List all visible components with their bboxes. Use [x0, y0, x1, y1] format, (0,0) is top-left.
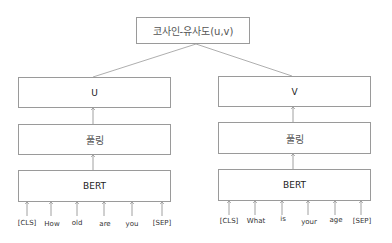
left-pooling-box: 풀링 [18, 124, 171, 155]
right-token: age [329, 216, 342, 224]
right-token: [SEP] [353, 217, 372, 225]
left-token: you [126, 220, 139, 228]
left-output-box: U [18, 77, 171, 108]
right-pooling-label: 풀링 [286, 131, 304, 146]
right-pooling-box: 풀링 [218, 122, 371, 154]
left-output-label: U [91, 88, 98, 98]
left-bert-label: BERT [83, 181, 106, 191]
right-token: [CLS] [220, 217, 239, 225]
right-bert-box: BERT [218, 169, 371, 201]
left-bert-box: BERT [18, 170, 171, 202]
left-token: How [44, 220, 59, 228]
left-token: [CLS] [18, 219, 37, 227]
left-token: [SEP] [153, 219, 172, 227]
right-output-box: V [218, 76, 371, 107]
right-bert-label: BERT [283, 180, 306, 190]
left-pooling-label: 풀링 [86, 132, 104, 147]
cosine-similarity-label: 코사인-유사도(u,v) [153, 23, 234, 38]
right-token: is [280, 215, 286, 223]
right-token: your [301, 218, 317, 226]
cosine-similarity-box: 코사인-유사도(u,v) [136, 17, 250, 44]
right-token: What [247, 217, 265, 225]
left-token: old [72, 219, 83, 227]
left-token: are [99, 220, 110, 228]
right-output-label: V [291, 87, 297, 97]
